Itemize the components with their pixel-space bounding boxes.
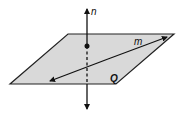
geometry-diagram: n m Q <box>0 0 179 118</box>
plane-q <box>10 34 174 84</box>
label-n: n <box>91 6 97 17</box>
label-m: m <box>134 36 142 47</box>
intersection-point <box>85 44 90 49</box>
label-q: Q <box>110 73 118 84</box>
